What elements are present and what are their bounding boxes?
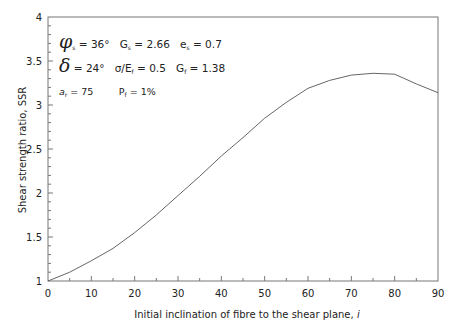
x-tick-label: 70 [345,288,358,299]
y-tick-label: 1 [36,276,42,287]
x-axis-ticks [70,276,417,281]
sigma-ef-symbol: σ/E [115,62,132,74]
gf-symbol: G [176,62,184,74]
gs-value: = 2.66 [131,38,170,50]
delta-value: = 24° [70,62,104,74]
x-tick-label: 0 [45,288,51,299]
annotation-line-2: δ = 24° σ/Ef = 0.5 Gf = 1.38 [59,54,225,76]
x-axis-label: Initial inclination of fibre to the shea… [134,309,360,320]
y-tick-label: 1.5 [26,232,42,243]
y-tick-label: 3 [36,100,42,111]
x-tick-label: 90 [432,288,445,299]
es-value: = 0.7 [190,38,222,50]
sigma-ef-value: = 0.5 [134,62,166,74]
y-axis-tick-labels: 11.522.533.54 [26,12,42,287]
ar-value: = 75 [67,86,93,97]
x-axis-tick-labels: 0102030405060708090 [45,288,445,299]
annotation-line-3: ar = 75 Pf = 1% [59,80,156,99]
y-tick-label: 2 [36,188,42,199]
x-tick-label: 10 [85,288,98,299]
y-tick-label: 4 [36,12,42,23]
annotation-line-1: φs = 36° Gs = 2.66 es = 0.7 [59,30,222,52]
y-axis-ticks [48,26,53,272]
gs-symbol: G [120,38,128,50]
x-tick-label: 30 [172,288,185,299]
y-tick-label: 2.5 [26,144,42,155]
x-tick-label: 60 [302,288,315,299]
gf-value: = 1.38 [186,62,225,74]
y-axis-label: Shear strength ratio, SSR [17,87,28,214]
x-tick-label: 50 [258,288,271,299]
x-tick-label: 20 [128,288,141,299]
ssr-curve [48,73,438,281]
y-tick-label: 3.5 [26,56,42,67]
parameter-annotation: φs = 36° Gs = 2.66 es = 0.7 δ = 24° σ/Ef… [59,30,299,100]
phi-value: = 36° [75,38,109,50]
pf-value: = 1% [127,86,156,97]
delta-symbol: δ [59,54,70,76]
phi-symbol: φ [59,30,72,52]
x-tick-label: 80 [388,288,401,299]
x-tick-label: 40 [215,288,228,299]
